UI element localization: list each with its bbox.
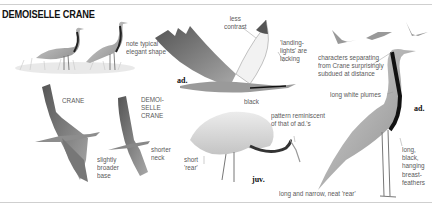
label-long-white-plumes: long white plumes — [330, 91, 381, 99]
label-note-shape: note typical elegant shape — [126, 40, 166, 56]
label-breast-feathers: long, black, hanging breast- feathers — [402, 146, 425, 187]
label-short-rear: short 'rear' — [184, 156, 198, 172]
age-juvenile: juv. — [252, 175, 265, 184]
label-narrow-rear: long and narrow, neat 'rear' — [279, 190, 356, 198]
distant-cranes-icon — [332, 22, 428, 44]
label-shorter-neck: shorter neck — [151, 146, 171, 162]
label-demoiselle-crane: DEMOI- SELLE CRANE — [141, 96, 164, 121]
grass-icon — [15, 58, 135, 74]
label-less-contrast: less contrast — [224, 15, 247, 31]
label-characters: characters separating from Crane surpris… — [318, 54, 384, 79]
age-flying-adult: ad. — [177, 76, 187, 85]
label-broader-base: slightly broader base — [97, 156, 119, 181]
label-black: black — [244, 98, 259, 106]
age-standing-adult: ad. — [414, 104, 424, 113]
label-pattern: pattern reminiscent of that of ad.'s — [271, 112, 325, 128]
label-crane: CRANE — [62, 97, 84, 105]
label-landing-lights: 'landing- lights' are lacking — [280, 39, 307, 64]
